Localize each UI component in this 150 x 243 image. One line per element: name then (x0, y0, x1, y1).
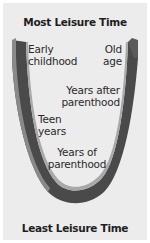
leisure-u-curve (0, 0, 150, 243)
stage-years-of-parenthood: Years of parenthood (47, 146, 107, 170)
stage-early-childhood: Early childhood (28, 43, 77, 67)
least-leisure-title: Least Leisure Time (0, 222, 150, 234)
stage-old-age: Old age (100, 43, 122, 67)
stage-years-after-parenthood: Years after parenthood (58, 84, 120, 108)
stage-teen-years: Teen years (38, 113, 66, 137)
